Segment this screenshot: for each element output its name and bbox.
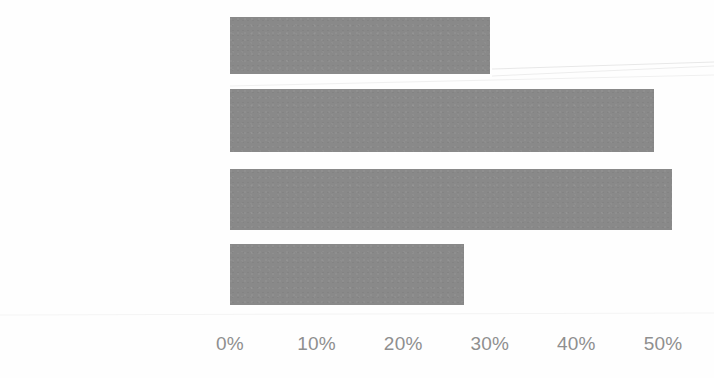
x-tick-label: 50% [644,333,683,355]
bar-disabled-families [230,244,464,305]
bar-chart: CHILDREN LONE PARENTS PEOPLE OF BANGLADE… [0,0,714,378]
x-axis: 0% 10% 20% 30% 40% 50% [0,333,714,363]
x-tick-label: 0% [216,333,244,355]
x-tick-label: 30% [470,333,509,355]
bar-children [230,17,490,74]
plot-area: CHILDREN LONE PARENTS PEOPLE OF BANGLADE… [0,0,714,378]
x-tick-label: 10% [297,333,336,355]
bar-lone-parents [230,89,654,152]
x-tick-label: 20% [384,333,423,355]
x-tick-label: 40% [557,333,596,355]
bar-bangladeshi-origin [230,169,672,230]
